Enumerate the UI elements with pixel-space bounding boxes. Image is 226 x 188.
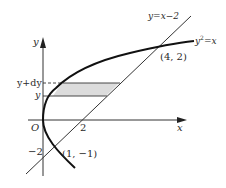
- upper-intersection-label: (4, 2): [160, 51, 187, 62]
- x-axis-label: x: [177, 122, 183, 133]
- line-equation-label: y=x−2: [147, 11, 179, 21]
- parabola-equation-label: y2=x: [194, 34, 217, 46]
- y-tick-minus-2-label: −2: [28, 146, 43, 157]
- strip-top-label: y+dy: [16, 77, 42, 88]
- line-y-equals-x-minus-2: [26, 16, 191, 174]
- lower-intersection-label: (1, −1): [62, 148, 97, 159]
- parabola-label-rest: =x: [204, 36, 217, 46]
- y-axis-arrow-icon: [40, 37, 46, 48]
- y-axis-label: y: [32, 36, 39, 47]
- strip-bottom-label: y: [34, 89, 41, 100]
- x-tick-2-label: 2: [80, 122, 86, 133]
- origin-label: O: [31, 122, 39, 133]
- area-diagram: y x O 2 −2 y+dy y y=x−2 y2=x (4, 2) (1, …: [0, 0, 226, 188]
